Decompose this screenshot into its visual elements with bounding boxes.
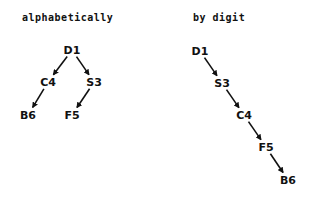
node-c4: C4 [40, 76, 56, 89]
node-c4: C4 [236, 109, 252, 122]
arrow-d1-to-c4 [53, 56, 67, 74]
arrow-c4-to-f5 [249, 122, 261, 140]
node-s3: S3 [86, 76, 102, 89]
node-b6: B6 [280, 174, 296, 187]
node-f5: F5 [64, 109, 79, 122]
arrow-f5-to-b6 [270, 154, 283, 173]
arrow-s3-to-f5 [77, 89, 90, 108]
node-d1: D1 [192, 45, 209, 58]
arrow-d1-to-s3 [205, 58, 217, 76]
node-b6: B6 [20, 109, 36, 122]
arrow-c4-to-b6 [33, 89, 44, 108]
arrow-s3-to-c4 [227, 90, 239, 108]
arrow-d1-to-s3 [77, 57, 89, 75]
node-f5: F5 [258, 141, 273, 154]
node-s3: S3 [214, 77, 230, 90]
edges-layer [0, 0, 316, 199]
node-d1: D1 [64, 44, 81, 57]
